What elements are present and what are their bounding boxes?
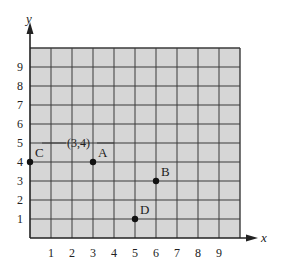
x-tick-labels: 123456789 [48, 246, 222, 260]
x-axis-label: x [260, 230, 267, 245]
point-label: D [140, 202, 149, 217]
x-tick-label: 3 [90, 246, 96, 260]
y-tick-label: 8 [17, 79, 23, 93]
x-tick-label: 4 [111, 246, 117, 260]
annotation-text: (3,4) [67, 136, 90, 150]
y-tick-label: 2 [17, 193, 23, 207]
point-label: C [35, 145, 44, 160]
x-tick-label: 8 [195, 246, 201, 260]
y-tick-label: 5 [17, 136, 23, 150]
point-dot-icon [153, 178, 159, 184]
point-dot-icon [27, 159, 33, 165]
x-tick-label: 6 [153, 246, 159, 260]
point-label: B [161, 164, 170, 179]
y-axis-label: y [24, 11, 32, 26]
y-tick-label: 1 [17, 212, 23, 226]
x-tick-label: 1 [48, 246, 54, 260]
x-tick-label: 7 [174, 246, 180, 260]
y-tick-label: 4 [17, 155, 23, 169]
y-tick-label: 6 [17, 117, 23, 131]
x-tick-label: 5 [132, 246, 138, 260]
coordinate-grid-figure: y x 123456789 123456789 (3,4) ABCD [0, 0, 283, 270]
x-axis-arrow-icon [246, 235, 258, 242]
x-tick-label: 2 [69, 246, 75, 260]
y-tick-label: 3 [17, 174, 23, 188]
point-dot-icon [90, 159, 96, 165]
point-label: A [98, 145, 108, 160]
point-dot-icon [132, 216, 138, 222]
y-tick-label: 7 [17, 98, 23, 112]
x-tick-label: 9 [216, 246, 222, 260]
y-tick-labels: 123456789 [17, 60, 23, 226]
coordinate-plane: y x 123456789 123456789 (3,4) ABCD [0, 0, 283, 270]
y-tick-label: 9 [17, 60, 23, 74]
